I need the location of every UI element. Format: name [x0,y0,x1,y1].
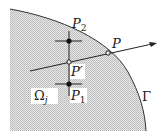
diagram-canvas: P2 P P′ P1 Ωj Γ [0,0,164,137]
label-p2: P2 [71,16,86,33]
label-gamma: Γ [142,89,151,104]
point-p1-dot [66,81,71,86]
arrowhead-icon [149,42,157,47]
point-p [106,51,110,55]
point-p2-dot [66,38,71,43]
label-p: P [111,36,121,51]
label-p-prime: P′ [70,64,83,79]
